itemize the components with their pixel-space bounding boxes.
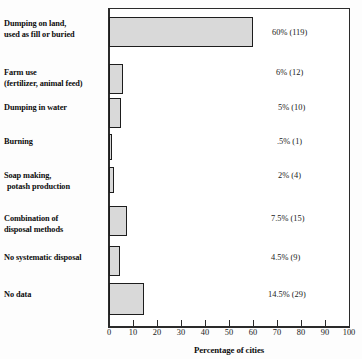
category-label-line1: No data [4, 290, 31, 299]
chart-row: Combination ofdisposal methods7.5% (15) [0, 205, 362, 243]
category-label: Combination ofdisposal methods [4, 214, 104, 235]
bar-value-label: 5% (10) [278, 103, 305, 113]
category-label: Soap making,potash production [4, 171, 104, 192]
bar-value-label: 60% (119) [272, 28, 307, 38]
bar [109, 246, 120, 276]
x-axis-tick-label: 100 [343, 328, 356, 337]
category-label: No systematic disposal [4, 253, 104, 264]
category-label: Dumping in water [4, 103, 104, 114]
category-label: Farm use(fertilizer, animal feed) [4, 68, 104, 89]
category-label-line1: No systematic disposal [4, 253, 82, 262]
bar [109, 134, 112, 160]
chart-row: Farm use(fertilizer, animal feed)6% (12) [0, 63, 362, 101]
category-label-line2: used as fill or buried [4, 30, 104, 41]
chart-row: Soap making,potash production2% (4) [0, 166, 362, 204]
x-axis-tick-label: 0 [107, 328, 111, 337]
category-label-line1: Dumping in water [4, 103, 67, 112]
category-label-line1: Farm use [4, 68, 37, 77]
category-label: No data [4, 290, 104, 301]
bar [109, 17, 253, 47]
bar [109, 98, 121, 128]
category-label-line1: Combination of [4, 214, 58, 223]
category-label-line2: (fertilizer, animal feed) [4, 79, 104, 90]
x-axis-tick-label: 10 [129, 328, 137, 337]
bar-chart-figure: Dumping on land,used as fill or buried60… [0, 0, 362, 359]
bar-value-label: 14.5% (29) [268, 290, 306, 300]
bar [109, 64, 123, 94]
x-axis-tick [109, 320, 110, 326]
category-label-line1: Burning [4, 137, 33, 146]
x-axis-tick [277, 320, 278, 326]
category-label: Burning [4, 137, 104, 148]
bar [109, 167, 114, 193]
x-axis-tick-label: 70 [273, 328, 281, 337]
x-axis-tick [253, 320, 254, 326]
x-axis-tick [325, 320, 326, 326]
x-axis-tick [301, 320, 302, 326]
x-axis-tick-label: 40 [201, 328, 209, 337]
x-axis-tick-label: 90 [321, 328, 329, 337]
chart-row: Dumping in water5% (10) [0, 97, 362, 135]
category-label-line2: potash production [4, 182, 104, 193]
bar-value-label: 4.5% (9) [271, 253, 300, 263]
x-axis-tick [349, 320, 350, 326]
category-label-line1: Soap making, [4, 171, 51, 180]
category-label-line1: Dumping on land, [4, 19, 66, 28]
x-axis-tick [157, 320, 158, 326]
category-label: Dumping on land,used as fill or buried [4, 19, 104, 40]
x-axis-tick-label: 30 [177, 328, 185, 337]
chart-row: No systematic disposal4.5% (9) [0, 245, 362, 283]
bar-value-label: 7.5% (15) [271, 214, 305, 224]
chart-row: No data14.5% (29) [0, 282, 362, 320]
bar [109, 206, 127, 236]
chart-row: Dumping on land,used as fill or buried60… [0, 16, 362, 54]
category-label-line2: disposal methods [4, 225, 104, 236]
x-axis-tick-label: 60 [249, 328, 257, 337]
bar-value-label: 2% (4) [278, 171, 301, 181]
x-axis-tick-label: 80 [297, 328, 305, 337]
x-axis-title: Percentage of cities [108, 345, 350, 355]
x-axis-tick-label: 50 [225, 328, 233, 337]
x-axis-tick [205, 320, 206, 326]
bar [109, 283, 144, 315]
bar-value-label: 6% (12) [276, 68, 303, 78]
x-axis-tick [229, 320, 230, 326]
x-axis-tick [133, 320, 134, 326]
x-axis-tick [181, 320, 182, 326]
bar-value-label: .5% (1) [277, 137, 302, 147]
x-axis-tick-label: 20 [153, 328, 161, 337]
